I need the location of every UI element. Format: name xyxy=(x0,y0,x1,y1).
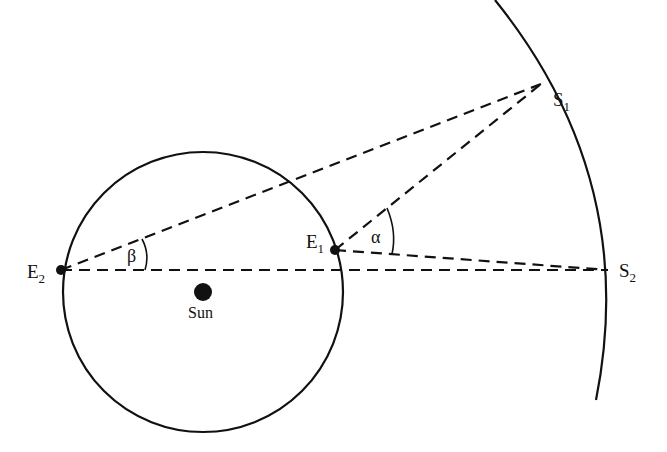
label-s2: S2 xyxy=(619,260,636,285)
label-sun: Sun xyxy=(188,304,213,321)
alpha-angle-arc xyxy=(387,208,394,254)
line-e1-s1 xyxy=(335,84,541,250)
line-e2-s1 xyxy=(61,84,541,270)
label-s1: S1 xyxy=(553,89,570,114)
label-beta: β xyxy=(127,246,136,266)
earth-position-1-dot xyxy=(330,245,340,255)
label-alpha: α xyxy=(371,227,381,247)
parallax-diagram: S1 S2 E1 E2 α β Sun xyxy=(0,0,667,452)
celestial-arc xyxy=(495,0,606,400)
label-e1: E1 xyxy=(306,231,324,256)
beta-angle-arc xyxy=(142,239,147,270)
earth-position-2-dot xyxy=(56,265,66,275)
sun-dot xyxy=(194,283,212,301)
line-e1-s2 xyxy=(335,250,608,270)
label-e2: E2 xyxy=(27,261,45,286)
